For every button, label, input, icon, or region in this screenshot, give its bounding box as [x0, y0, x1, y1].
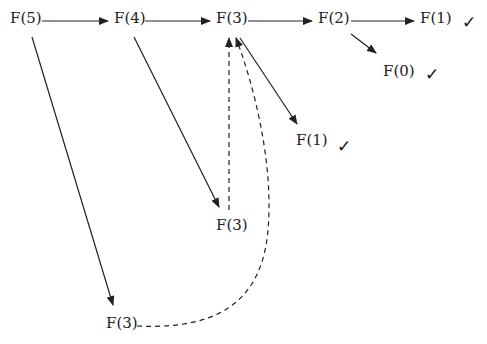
edge-f4-f3b [134, 37, 219, 207]
node-f4: F(4) [114, 11, 146, 26]
checkmark-icon: ✓ [462, 14, 476, 31]
edge-f3-f1 [240, 38, 297, 124]
node-f3-mid: F(3) [216, 218, 248, 233]
node-f1-top: F(1) [420, 11, 452, 26]
node-f2: F(2) [318, 11, 350, 26]
node-f3-top: F(3) [216, 11, 248, 26]
edge-f2-f0 [351, 34, 376, 53]
edge-f5-f3c [32, 37, 113, 305]
checkmark-icon: ✓ [425, 66, 439, 83]
node-f0: F(0) [383, 64, 415, 79]
edges-layer [0, 0, 487, 344]
checkmark-icon: ✓ [337, 138, 351, 155]
edge-f3c-f3-dashed [137, 38, 269, 326]
node-f3-bottom: F(3) [106, 316, 138, 331]
node-f1-mid: F(1) [296, 133, 328, 148]
node-f5: F(5) [10, 11, 42, 26]
